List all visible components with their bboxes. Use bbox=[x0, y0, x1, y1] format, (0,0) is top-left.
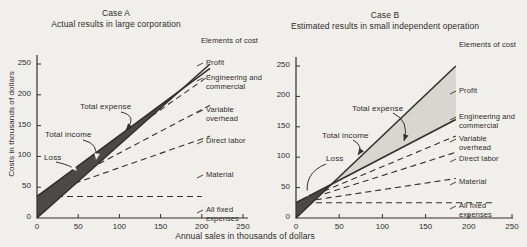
case-b-engineering-and-commercial-label: Engineering and commercial bbox=[459, 112, 525, 130]
case-b-x-tick-label-200: 200 bbox=[457, 222, 481, 231]
case-a-total-income-annotation: Total income bbox=[45, 130, 92, 139]
case-a-y-tick-label-250: 250 bbox=[9, 58, 31, 67]
case-b-y-tick-label-0: 0 bbox=[268, 212, 290, 221]
case-b-total-expense-annotation: Total expense bbox=[352, 104, 403, 113]
case-b-material-leader bbox=[450, 182, 456, 185]
case-a-material-label: Material bbox=[206, 170, 256, 179]
case-b-material-label: Material bbox=[459, 177, 509, 186]
case-a-x-tick-label-150: 150 bbox=[149, 222, 173, 231]
case-b-y-tick-label-200: 200 bbox=[268, 90, 290, 99]
case-a-y-tick-label-0: 0 bbox=[9, 212, 31, 221]
case-b-y-tick-label-250: 250 bbox=[268, 60, 290, 69]
case-a-profit-leader bbox=[197, 63, 203, 66]
case-a-x-tick-label-50: 50 bbox=[66, 222, 90, 231]
case-b-variable-overhead-label: Variable overhead bbox=[459, 134, 503, 152]
breakeven-charts-svg bbox=[0, 0, 527, 247]
case-a-all-fixed-expenses-label: All fixed expenses bbox=[206, 205, 246, 223]
case-b-title: Case B bbox=[275, 10, 495, 21]
case-a-direct-labor-label: Direct labor bbox=[206, 136, 266, 145]
case-b-elements-of-cost-header: Elements of cost bbox=[459, 40, 516, 49]
breakeven-figure: Case A Actual results in large corporati… bbox=[0, 0, 527, 247]
case-a-material-leader bbox=[197, 175, 203, 178]
case-b-y-tick-label-50: 50 bbox=[268, 182, 290, 191]
case-b-loss-annotation: Loss bbox=[326, 154, 344, 163]
case-b-title-block: Case B Estimated results in small indepe… bbox=[275, 10, 495, 32]
case-a-y-tick-label-100: 100 bbox=[9, 150, 31, 159]
case-b-total-income-line bbox=[296, 66, 456, 218]
case-b-x-tick-label-0: 0 bbox=[284, 222, 308, 231]
case-b-all-fixed-expenses-label: All fixed expenses bbox=[459, 201, 499, 219]
case-b-y-tick-label-150: 150 bbox=[268, 121, 290, 130]
case-b-profit-label: Profit bbox=[459, 86, 509, 95]
case-a-direct-labor-leader bbox=[197, 141, 203, 144]
case-b-direct-labor-label: Direct labor bbox=[459, 154, 519, 163]
case-a-x-tick-label-200: 200 bbox=[190, 222, 214, 231]
case-b-y-tick-label-100: 100 bbox=[268, 151, 290, 160]
case-a-all-fixed-expenses-leader bbox=[197, 210, 203, 213]
case-b-total-income-annotation: Total income bbox=[322, 131, 369, 140]
case-b-x-tick-label-250: 250 bbox=[500, 222, 524, 231]
case-a-variable-overhead-label: Variable overhead bbox=[206, 105, 250, 123]
case-a-y-tick-label-200: 200 bbox=[9, 89, 31, 98]
case-a-title: Case A bbox=[26, 8, 206, 19]
case-a-x-tick-label-0: 0 bbox=[25, 222, 49, 231]
case-a-x-tick-label-250: 250 bbox=[231, 222, 255, 231]
case-a-x-tick-label-100: 100 bbox=[107, 222, 131, 231]
case-b-x-tick-label-150: 150 bbox=[414, 222, 438, 231]
case-b-subtitle: Estimated results in small independent o… bbox=[275, 21, 495, 32]
case-b-variable-overhead-leader bbox=[450, 139, 456, 142]
case-a-total-expense-annotation: Total expense bbox=[80, 102, 131, 111]
case-a-profit-label: Profit bbox=[206, 58, 256, 67]
case-b-x-tick-label-100: 100 bbox=[370, 222, 394, 231]
case-a-engineering-and-commercial-label: Engineering and commercial bbox=[206, 73, 272, 91]
case-a-y-tick-label-50: 50 bbox=[9, 181, 31, 190]
case-a-title-block: Case A Actual results in large corporati… bbox=[26, 8, 206, 30]
case-b-x-tick-label-50: 50 bbox=[327, 222, 351, 231]
case-a-y-tick-label-150: 150 bbox=[9, 120, 31, 129]
case-a-subtitle: Actual results in large corporation bbox=[26, 19, 206, 30]
case-a-loss-annotation: Loss bbox=[44, 153, 62, 162]
case-b-direct-labor-leader bbox=[450, 159, 456, 162]
x-axis-title: Annual sales in thousands of dollars bbox=[155, 231, 335, 241]
case-a-elements-of-cost-header: Elements of cost bbox=[201, 36, 258, 45]
case-b-all-fixed-expenses-leader bbox=[450, 206, 456, 209]
